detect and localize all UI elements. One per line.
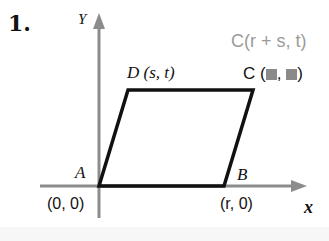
vertex-c-suffix: ) — [297, 64, 303, 83]
vertex-c-prefix: C ( — [243, 64, 266, 83]
x-axis-arrowhead-icon — [291, 180, 307, 192]
parallelogram-abcd — [99, 90, 253, 186]
vertex-c-sep: , — [277, 64, 286, 83]
problem-number: 1. — [8, 12, 31, 34]
vertex-d-text: D (s, t) — [127, 63, 175, 82]
hidden-value-box-icon — [286, 69, 297, 80]
vertex-b-coords: (r, 0) — [220, 196, 253, 212]
hidden-value-box-icon — [266, 69, 277, 80]
x-axis-label: x — [304, 198, 313, 216]
y-axis-label: Y — [78, 12, 86, 27]
vertex-a-label: A — [75, 164, 85, 181]
page-bottom-strip — [0, 227, 329, 241]
vertex-d-label: D (s, t) — [127, 64, 175, 81]
answer-annotation: C(r + s, t) — [231, 32, 307, 50]
vertex-a-coords: (0, 0) — [47, 196, 84, 212]
vertex-c-label: C (, ) — [243, 65, 303, 82]
y-axis-arrowhead-icon — [93, 13, 105, 29]
vertex-b-label: B — [237, 166, 247, 183]
